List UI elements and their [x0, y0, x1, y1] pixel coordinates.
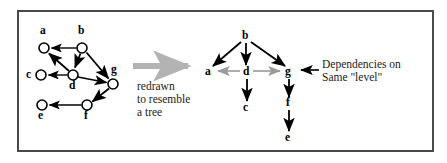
left-node-label-c: c	[26, 68, 31, 80]
right-node-label-b: b	[242, 29, 248, 41]
right-node-label-e: e	[285, 131, 290, 143]
left-node-label-g: g	[111, 63, 117, 75]
left-node-label-e: e	[38, 109, 43, 121]
left-node-label-f: f	[84, 109, 88, 121]
right-node-label-a: a	[205, 65, 211, 77]
right-node-label-d: d	[243, 65, 249, 77]
redrawn-caption: redrawn to resemble a tree	[137, 80, 190, 119]
right-node-label-f: f	[286, 96, 290, 108]
right-node-label-c: c	[243, 101, 248, 113]
left-node-label-b: b	[78, 24, 84, 36]
figure-container: a b c d e f g b a d g c f e redrawn to r…	[0, 0, 447, 163]
left-node-label-a: a	[40, 24, 46, 36]
left-node-label-d: d	[69, 79, 75, 91]
same-level-caption: Dependencies on Same "level"	[322, 58, 401, 84]
right-node-label-g: g	[285, 65, 291, 77]
